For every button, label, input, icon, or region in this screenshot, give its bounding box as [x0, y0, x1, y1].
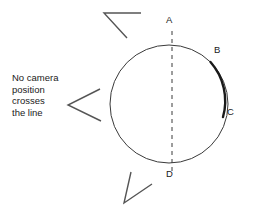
- annotation-text: No camera position crosses the line: [12, 72, 82, 118]
- point-label-a: A: [166, 15, 172, 25]
- point-label-d: D: [166, 169, 173, 179]
- diagram-canvas: No camera position crosses the line A B …: [0, 0, 257, 213]
- bottom-caret-icon: [124, 172, 152, 203]
- top-left-caret-icon: [104, 13, 141, 38]
- bold-arc-b-to-c: [211, 62, 226, 117]
- point-label-c: C: [227, 107, 234, 117]
- point-label-b: B: [214, 45, 220, 55]
